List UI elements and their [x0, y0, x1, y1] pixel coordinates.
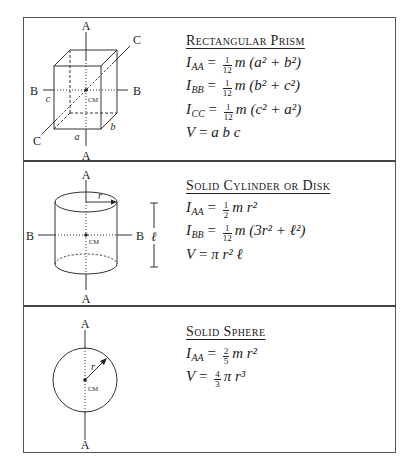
rectangular-prism-text: Rectangular Prism IAA = 112m (a² + b²) I… [186, 31, 305, 144]
solid-sphere-text: Solid Sphere IAA = 25m r² V = 43π r³ [186, 322, 265, 389]
formula-iaa: IAA = 112m (a² + b²) [186, 51, 305, 74]
svg-text:A: A [81, 317, 90, 331]
solid-sphere-diagram-icon: A A r CM [0, 0, 200, 473]
formula-iaa: IAA = 25m r² [186, 342, 265, 365]
solid-cylinder-text: Solid Cylinder or Disk IAA = 12m r² IBB … [186, 176, 330, 266]
formula-ibb: IBB = 112m (3r² + ℓ²) [186, 219, 330, 242]
rectangular-prism-heading: Rectangular Prism [186, 31, 305, 51]
solid-sphere-figure: A A r CM [0, 0, 200, 473]
svg-text:A: A [81, 438, 90, 452]
formula-volume: V = π r² ℓ [186, 243, 330, 266]
formula-icc: ICC = 112m (c² + a²) [186, 98, 305, 121]
formula-volume: V = a b c [186, 121, 305, 144]
formula-volume: V = 43π r³ [186, 365, 265, 388]
solid-cylinder-heading: Solid Cylinder or Disk [186, 176, 330, 196]
svg-text:r: r [91, 361, 95, 372]
solid-sphere-heading: Solid Sphere [186, 322, 265, 342]
formula-iaa: IAA = 12m r² [186, 196, 330, 219]
svg-text:CM: CM [88, 385, 98, 392]
formula-ibb: IBB = 112m (b² + c²) [186, 74, 305, 97]
